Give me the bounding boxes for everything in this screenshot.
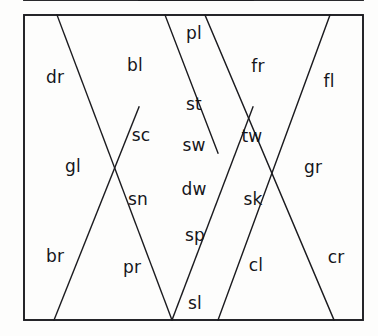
cell-label-sp: sp	[185, 227, 205, 244]
cell-label-dw: dw	[181, 181, 206, 198]
cell-label-gr: gr	[304, 159, 322, 176]
cell-label-dr: dr	[46, 69, 64, 86]
cell-label-sl: sl	[188, 295, 202, 312]
blend-lattice-diagram: drblplfrflstscswtwglgrdwsnskspbrprclcrsl	[0, 0, 378, 336]
cell-label-bl: bl	[127, 57, 143, 74]
cell-label-sw: sw	[182, 137, 205, 154]
diag-sc-sn	[54, 107, 139, 320]
cell-label-sc: sc	[132, 127, 151, 144]
cell-label-fr: fr	[251, 58, 264, 75]
cell-label-sk: sk	[243, 191, 262, 208]
cell-label-br: br	[46, 248, 64, 265]
cell-label-cl: cl	[249, 257, 263, 274]
cell-label-st: st	[186, 96, 202, 113]
cell-label-sn: sn	[128, 191, 148, 208]
cell-label-gl: gl	[65, 158, 81, 175]
diagonal-lines	[54, 15, 334, 320]
cell-label-pr: pr	[123, 259, 141, 276]
cell-label-tw: tw	[242, 128, 263, 145]
cell-label-cr: cr	[328, 249, 345, 266]
cell-label-fl: fl	[323, 73, 334, 90]
cell-label-pl: pl	[186, 25, 202, 42]
